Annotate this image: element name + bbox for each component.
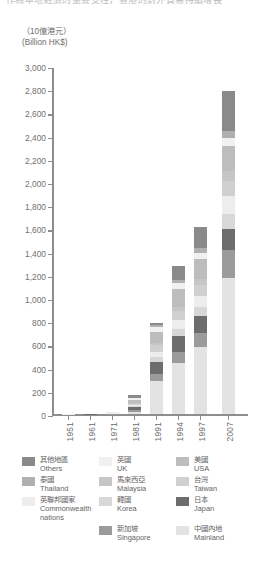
y-tick-label: 1,200 (25, 272, 46, 282)
legend-label-cn: 台灣 (194, 475, 217, 484)
legend-item-uk[interactable]: 英國UK (99, 455, 176, 474)
legend-item-korea[interactable]: 韓國Korea (99, 495, 176, 523)
bar-segment (194, 227, 207, 248)
legend-swatch (22, 457, 35, 466)
legend-item-singapore[interactable]: 新加坡Singapore (99, 524, 176, 543)
legend-label-cn: 韓國 (117, 495, 137, 504)
y-tick-label: 1,800 (25, 202, 46, 212)
x-tick (200, 415, 201, 420)
bar-segment (128, 412, 141, 415)
legend-row: 英聯邦國家Commonwealthnations韓國Korea日本Japan (22, 495, 254, 523)
bar-segment (222, 138, 235, 146)
legend-label-cn: 英國 (117, 455, 131, 464)
bar-segment (172, 311, 185, 320)
bar-1971 (106, 412, 119, 414)
legend-row: 泰國Thailand馬來西亞Malaysia台灣Taiwan (22, 475, 254, 494)
legend-label: 韓國Korea (117, 495, 137, 514)
legend-swatch (99, 526, 112, 535)
legend-swatch (99, 497, 112, 506)
legend-label: 台灣Taiwan (194, 475, 217, 494)
legend-label-cn: 馬來西亞 (117, 475, 146, 484)
bar-segment (222, 181, 235, 196)
legend-label-en: USA (194, 464, 209, 473)
x-tick-label: 1997 (197, 422, 207, 441)
y-tick (48, 323, 53, 324)
bar-segment (194, 347, 207, 414)
bar-segment (172, 363, 185, 414)
legend-item-thailand[interactable]: 泰國Thailand (22, 475, 99, 494)
legend-item-malaysia[interactable]: 馬來西亞Malaysia (99, 475, 176, 494)
legend-label: 泰國Thailand (40, 475, 68, 494)
bar-segment (172, 329, 185, 337)
bar-segment (172, 266, 185, 280)
bar-segment (194, 333, 207, 347)
bar-segment (222, 146, 235, 170)
legend-label: 英聯邦國家Commonwealthnations (40, 495, 91, 523)
legend-label: 中國內地Mainland (194, 524, 224, 543)
legend-swatch (176, 526, 189, 535)
y-tick-label: 2,600 (25, 109, 46, 119)
bar-segment (172, 336, 185, 352)
x-tick-label: 1991 (153, 422, 163, 441)
legend-swatch (176, 477, 189, 486)
y-tick (48, 207, 53, 208)
x-tick-label: 1981 (131, 422, 141, 441)
legend-label-cn: 日本 (194, 495, 214, 504)
legend-row: 新加坡Singapore中國內地Mainland (22, 524, 254, 543)
legend-swatch (22, 497, 35, 506)
legend-label-en: Mainland (194, 533, 224, 542)
y-tick (48, 393, 53, 394)
legend-label-en: Commonwealth (40, 504, 91, 513)
axes: 02004006008001,0001,2001,4001,6001,8002,… (52, 68, 248, 416)
legend-label: 美國USA (194, 455, 209, 474)
legend-swatch (22, 477, 35, 486)
y-tick (48, 254, 53, 255)
y-tick (48, 277, 53, 278)
legend-item-japan[interactable]: 日本Japan (176, 495, 253, 523)
legend-item-usa[interactable]: 美國USA (176, 455, 253, 474)
x-tick-label: 1971 (109, 422, 119, 441)
bar-1981 (128, 395, 141, 414)
y-tick (48, 68, 53, 69)
y-tick-label: 1,400 (25, 249, 46, 259)
bar-segment (194, 307, 207, 316)
legend-item-taiwan[interactable]: 台灣Taiwan (176, 475, 253, 494)
legend-label: 其他地區Others (40, 455, 68, 474)
bar-segment (172, 289, 185, 306)
legend-label-en: Others (40, 464, 68, 473)
legend-item-commonwealth-nations[interactable]: 英聯邦國家Commonwealthnations (22, 495, 99, 523)
bar-1991 (150, 323, 163, 415)
y-tick-label: 800 (32, 318, 46, 328)
x-tick (134, 415, 135, 420)
legend-swatch (176, 457, 189, 466)
bar-segment (150, 374, 163, 381)
legend-label-en: UK (117, 464, 131, 473)
x-tick-label: 1994 (175, 422, 185, 441)
y-tick-label: 3,000 (25, 63, 46, 73)
bar-segment (222, 131, 235, 138)
chart-legend: 其他地區Others英國UK美國USA泰國Thailand馬來西亞Malaysi… (22, 455, 254, 544)
x-tick (90, 415, 91, 420)
bar-segment (222, 171, 235, 181)
bar-segment (222, 229, 235, 249)
legend-label-cn: 美國 (194, 455, 209, 464)
y-tick-label: 200 (32, 388, 46, 398)
legend-label-en: Thailand (40, 484, 68, 493)
y-tick (48, 161, 53, 162)
legend-label-cn: 其他地區 (40, 455, 68, 464)
legend-swatch (99, 457, 112, 466)
legend-item-others[interactable]: 其他地區Others (22, 455, 99, 474)
legend-swatch (176, 497, 189, 506)
x-tick-label: 1951 (65, 422, 75, 441)
bar-segment (222, 278, 235, 415)
y-tick-label: 1,600 (25, 225, 46, 235)
x-tick (178, 415, 179, 420)
y-tick (48, 370, 53, 371)
bar-segment (194, 259, 207, 279)
bar-segment (150, 381, 163, 415)
legend-label-en: Japan (194, 504, 214, 513)
bar-1997 (194, 227, 207, 415)
y-tick-label: 1,000 (25, 295, 46, 305)
legend-item-mainland[interactable]: 中國內地Mainland (176, 524, 253, 543)
y-tick (48, 230, 53, 231)
